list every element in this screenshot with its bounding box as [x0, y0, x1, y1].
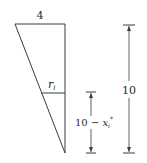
diagram-canvas: 4 ri 10 − xi* 10	[0, 0, 147, 163]
total-height-label: 10	[122, 84, 136, 97]
triangle-shape	[15, 24, 65, 153]
radius-label: ri	[48, 78, 56, 92]
small-dimension-label: 10 − xi*	[75, 115, 113, 129]
top-width-label: 4	[37, 9, 44, 22]
